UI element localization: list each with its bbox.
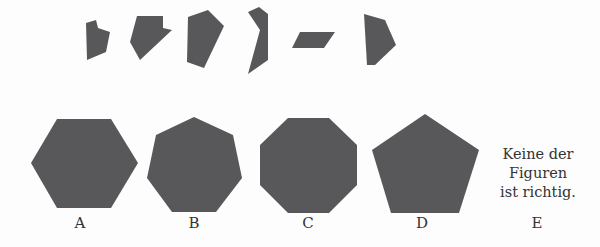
option-a-label[interactable]: A <box>75 214 86 232</box>
piece-2-shape <box>130 16 172 60</box>
option-e-line-2: Figuren <box>500 164 576 183</box>
piece-5-shape <box>292 32 335 48</box>
piece-3-shape <box>187 10 224 68</box>
option-b-heptagon-shape[interactable] <box>147 117 242 212</box>
option-c-octagon-shape[interactable] <box>260 118 357 213</box>
option-e-text[interactable]: Keine der Figuren ist richtig. <box>500 145 576 202</box>
option-c-label[interactable]: C <box>302 214 313 232</box>
option-e-line-3: ist richtig. <box>500 183 576 202</box>
piece-1-shape <box>86 20 110 60</box>
option-e-line-1: Keine der <box>500 145 576 164</box>
option-b-label[interactable]: B <box>188 214 199 232</box>
puzzle-canvas <box>0 0 600 247</box>
option-a-hexagon-shape[interactable] <box>31 119 138 208</box>
option-d-label[interactable]: D <box>416 214 428 232</box>
piece-6-shape <box>364 14 396 65</box>
answer-shapes <box>31 114 479 213</box>
option-e-label[interactable]: E <box>532 214 543 232</box>
option-d-pentagon-shape[interactable] <box>372 114 479 213</box>
puzzle-pieces <box>86 7 396 74</box>
piece-4-shape <box>248 7 268 74</box>
